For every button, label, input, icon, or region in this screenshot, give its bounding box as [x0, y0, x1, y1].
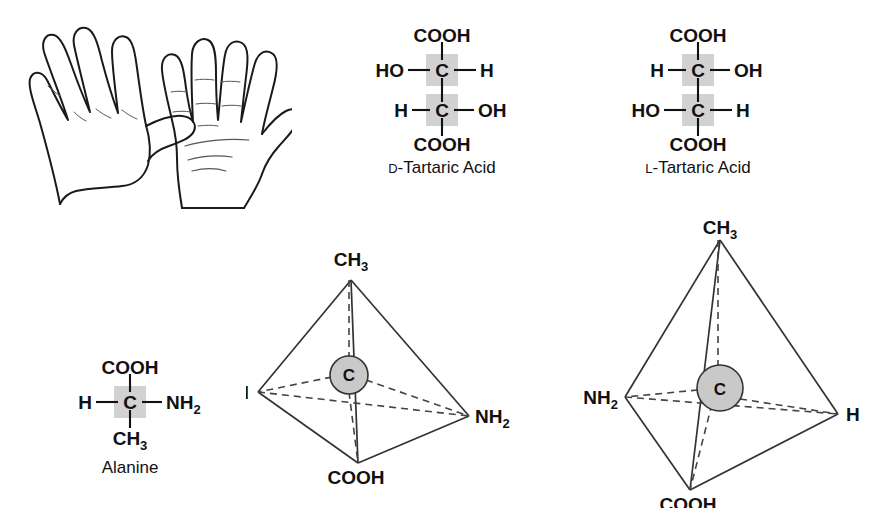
- stereocenter-carbon-top: C: [691, 60, 705, 81]
- substituent-top-right: H: [480, 60, 494, 81]
- alanine-structure: COOH C H NH2 CH3 Alanine: [38, 348, 258, 488]
- stereocenter-carbon-bottom: C: [435, 100, 449, 121]
- caption-text: -Tartaric Acid: [398, 158, 496, 177]
- chirality-figure: COOH COOH C C HO H H OH D-Tartaric Acid: [0, 0, 884, 530]
- center-bonds: [625, 240, 838, 490]
- substituent-top-right: OH: [734, 60, 763, 81]
- right-hand-drawing: [162, 39, 292, 208]
- amino-main: NH: [583, 387, 610, 408]
- substituent-bottom-right: OH: [478, 100, 507, 121]
- methyl-subscript: 3: [730, 227, 737, 242]
- methyl-subscript: 3: [361, 259, 368, 274]
- vertex-label-carboxyl: COOH: [660, 494, 717, 508]
- tetrahedron-hidden-edges: [258, 392, 469, 416]
- vertex-label-hydrogen: H: [246, 382, 249, 403]
- atom-label-top: COOH: [670, 25, 727, 46]
- amino-subscript: 2: [193, 402, 200, 417]
- substituent-top-left: HO: [376, 60, 405, 81]
- structure-caption: L-Tartaric Acid: [645, 158, 750, 177]
- substituent-amino: NH2: [166, 392, 201, 417]
- tetrahedron-edges: [625, 240, 838, 490]
- stereocenter-carbon-top: C: [435, 60, 449, 81]
- central-carbon-label: C: [714, 380, 726, 399]
- caption-stereo-prefix: L: [645, 161, 652, 176]
- methyl-subscript: 3: [140, 438, 147, 453]
- amino-subscript: 2: [502, 416, 509, 431]
- atom-label-bottom: COOH: [414, 134, 471, 155]
- substituent-methyl: CH3: [113, 428, 148, 453]
- substituent-hydrogen: H: [78, 392, 92, 413]
- substituent-bottom-right: H: [736, 100, 750, 121]
- methyl-main: CH: [113, 428, 140, 449]
- hands-illustration: [22, 8, 292, 213]
- amino-main: NH: [166, 392, 193, 413]
- l-tartaric-acid-structure: COOH COOH C C H OH HO H L-Tartaric Acid: [592, 18, 802, 178]
- caption-text: -Tartaric Acid: [652, 158, 750, 177]
- vertex-label-carboxyl: COOH: [328, 467, 385, 488]
- methyl-main: CH: [334, 249, 361, 270]
- tetrahedral-model-right: C CH3 NH2 H COOH: [562, 218, 884, 508]
- stereocenter-carbon-bottom: C: [691, 100, 705, 121]
- vertex-label-methyl: CH3: [334, 249, 369, 274]
- d-tartaric-acid-structure: COOH COOH C C HO H H OH D-Tartaric Acid: [336, 18, 546, 178]
- vertex-label-methyl: CH3: [703, 218, 738, 242]
- vertex-label-amino: NH2: [475, 406, 510, 431]
- atom-label-top: COOH: [414, 25, 471, 46]
- substituent-bottom-left: H: [394, 100, 408, 121]
- structure-caption: Alanine: [102, 458, 159, 477]
- substituent-top-left: H: [650, 60, 664, 81]
- amino-main: NH: [475, 406, 502, 427]
- vertex-label-hydrogen: H: [846, 404, 860, 425]
- amino-subscript: 2: [611, 397, 618, 412]
- methyl-main: CH: [703, 218, 730, 238]
- atom-label-carboxyl: COOH: [102, 357, 159, 378]
- stereocenter-carbon: C: [123, 392, 137, 413]
- vertex-label-amino: NH2: [583, 387, 618, 412]
- tetrahedral-model-left: C CH3 H NH2 COOH: [246, 240, 546, 505]
- substituent-bottom-left: HO: [632, 100, 661, 121]
- central-carbon-label: C: [343, 366, 355, 385]
- atom-label-bottom: COOH: [670, 134, 727, 155]
- structure-caption: D-Tartaric Acid: [388, 158, 496, 177]
- caption-stereo-prefix: D: [388, 161, 397, 176]
